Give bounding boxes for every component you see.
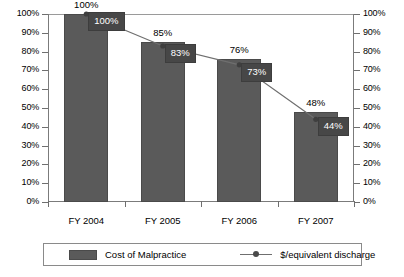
right-axis-tick-label: 80% (363, 47, 380, 56)
left-axis-tick-label: 40% (22, 122, 39, 131)
right-axis-tick-label: 30% (363, 141, 380, 150)
line-value-label: 44% (318, 117, 349, 136)
chart-container: 0%10%20%30%40%50%60%70%80%90%100% 0%10%2… (0, 0, 404, 277)
right-tick (354, 70, 360, 71)
legend-line-marker-icon (240, 250, 272, 260)
right-tick (354, 89, 360, 90)
right-axis-tick-label: 0% (363, 197, 376, 206)
legend-swatch-icon (69, 250, 97, 260)
right-tick (354, 183, 360, 184)
category-label-fy-2007: FY 2007 (276, 216, 356, 226)
line-value-label: 73% (241, 63, 272, 82)
legend-label-bar: Cost of Malpractice (105, 250, 186, 260)
left-axis-tick-label: 60% (22, 84, 39, 93)
legend-label-line: $/equivalent discharge (280, 250, 375, 260)
bar-value-label: 100% (56, 0, 116, 10)
right-axis-tick-label: 90% (363, 28, 380, 37)
right-tick (354, 108, 360, 109)
right-axis-tick-label: 20% (363, 159, 380, 168)
right-axis-tick-label: 100% (363, 9, 385, 18)
line-value-label: 83% (165, 44, 196, 63)
right-axis-tick-label: 40% (363, 122, 380, 131)
right-tick (354, 127, 360, 128)
left-axis-tick-label: 0% (26, 197, 39, 206)
category-label-fy-2006: FY 2006 (199, 216, 279, 226)
legend-item-cost-of-malpractice: Cost of Malpractice (69, 250, 186, 260)
category-tick (354, 201, 355, 207)
right-tick (354, 146, 360, 147)
left-axis-tick-label: 80% (22, 47, 39, 56)
left-axis-tick-label: 90% (22, 28, 39, 37)
right-tick (354, 14, 360, 15)
plot-area: 0%10%20%30%40%50%60%70%80%90%100% 0%10%2… (48, 14, 354, 202)
line-value-label: 100% (88, 12, 124, 31)
bar-value-label: 76% (209, 45, 269, 55)
category-label-fy-2005: FY 2005 (123, 216, 203, 226)
left-axis-tick-label: 100% (17, 9, 39, 18)
right-axis-tick-label: 60% (363, 84, 380, 93)
right-axis-tick-label: 10% (363, 178, 380, 187)
left-axis-tick-label: 30% (22, 141, 39, 150)
bar-value-label: 48% (286, 98, 346, 108)
line-series (48, 14, 354, 202)
right-axis-tick-label: 50% (363, 103, 380, 112)
left-axis-tick-label: 70% (22, 65, 39, 74)
left-axis-tick-label: 20% (22, 159, 39, 168)
category-label-fy-2004: FY 2004 (46, 216, 126, 226)
chart-legend: Cost of Malpractice $/equivalent dischar… (43, 243, 362, 266)
right-tick (354, 164, 360, 165)
right-axis-tick-label: 70% (363, 65, 380, 74)
right-tick (354, 52, 360, 53)
right-tick (354, 33, 360, 34)
left-axis-tick-label: 50% (22, 103, 39, 112)
legend-item-dollar-per-equivalent-discharge: $/equivalent discharge (240, 250, 375, 260)
left-axis-tick-label: 10% (22, 178, 39, 187)
bar-value-label: 85% (133, 28, 193, 38)
